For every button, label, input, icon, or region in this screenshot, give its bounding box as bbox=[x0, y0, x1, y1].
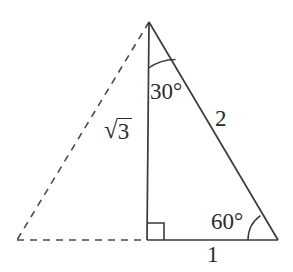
altitude-segment bbox=[147, 22, 149, 240]
geometry-diagram: 30° 60° 2 1 √3 bbox=[0, 0, 293, 272]
right-angle-marker-icon bbox=[147, 223, 164, 240]
triangle-figure bbox=[0, 0, 293, 272]
side-label-hypotenuse: 2 bbox=[215, 107, 227, 130]
angle-label-30: 30° bbox=[150, 80, 182, 103]
angle-arc-60-icon bbox=[248, 216, 260, 240]
side-label-altitude: √3 bbox=[104, 118, 132, 143]
hypotenuse-segment bbox=[149, 22, 278, 240]
angle-label-60: 60° bbox=[211, 210, 243, 233]
sqrt-expression: √3 bbox=[104, 118, 132, 143]
side-label-base: 1 bbox=[207, 243, 219, 266]
radical-sign-icon: √ bbox=[104, 117, 118, 142]
radicand-value: 3 bbox=[117, 118, 133, 143]
